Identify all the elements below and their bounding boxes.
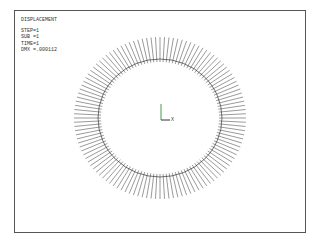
displacement-vector <box>178 171 186 195</box>
displacement-vector <box>106 162 123 181</box>
displacement-vector <box>172 173 178 197</box>
displacement-vector <box>197 162 214 181</box>
displacement-vector <box>74 121 101 122</box>
displacement-vector <box>217 132 243 138</box>
displacement-vector <box>78 93 104 101</box>
displacement-vector <box>218 105 245 109</box>
displacement-vector-ring: X <box>0 0 318 249</box>
displacement-vector <box>151 174 154 199</box>
displacement-vector <box>216 135 242 143</box>
x-axis-label: X <box>171 117 174 123</box>
displacement-vector <box>202 61 221 79</box>
displacement-vector <box>77 132 103 138</box>
displacement-vector <box>175 172 182 196</box>
displacement-vector <box>96 155 116 172</box>
displacement-vector <box>74 124 101 127</box>
displacement-vector <box>199 58 217 77</box>
displacement-vector <box>163 174 164 199</box>
displacement-vector <box>197 55 214 74</box>
displacement-vector <box>138 172 145 196</box>
displacement-vector <box>77 97 103 103</box>
displacement-vector <box>133 171 141 195</box>
displacement-vector <box>195 163 211 183</box>
displacement-vector <box>175 40 182 64</box>
displacement-vector <box>155 174 156 199</box>
displacement-vector <box>106 55 123 74</box>
displacement-vector <box>147 38 151 63</box>
displacement-vector <box>102 160 120 179</box>
displacement-vector <box>99 61 118 79</box>
displacement-vector <box>96 64 116 81</box>
displacement-vector <box>172 39 178 63</box>
displacement-vector <box>206 67 227 83</box>
displacement-vector <box>75 105 102 109</box>
displacement-vector <box>102 58 120 77</box>
displacement-vector <box>169 38 173 63</box>
displacement-vector <box>93 153 114 169</box>
displacement-vector <box>219 114 246 115</box>
displacement-vector <box>216 93 242 101</box>
displacement-vector <box>218 127 245 131</box>
displacement-vector <box>133 41 141 65</box>
axis-triad: X <box>161 104 174 123</box>
displacement-vector <box>142 173 148 197</box>
displacement-vector <box>204 64 224 81</box>
displacement-vector <box>76 101 102 106</box>
displacement-vector <box>218 130 244 135</box>
displacement-vector <box>219 124 246 127</box>
displacement-vector <box>76 130 102 135</box>
displacement-vector <box>109 163 125 183</box>
displacement-vector <box>151 37 154 62</box>
displacement-vector <box>78 135 104 143</box>
displacement-vector <box>109 52 125 72</box>
displacement-vector <box>219 110 246 113</box>
displacement-vector <box>75 127 102 131</box>
displacement-vector <box>138 40 145 64</box>
displacement-vector <box>169 173 173 198</box>
displacement-vector <box>166 37 169 62</box>
displacement-vector <box>74 114 101 115</box>
displacement-vector <box>178 41 186 65</box>
displacement-vector <box>206 153 227 169</box>
displacement-vector <box>199 160 217 179</box>
displacement-vector <box>202 158 221 176</box>
displacement-vector <box>142 39 148 63</box>
displacement-vector <box>155 37 156 62</box>
displacement-vector <box>93 67 114 83</box>
displacement-vector <box>166 174 169 199</box>
displacement-vectors <box>74 37 246 199</box>
displacement-vector <box>218 101 244 106</box>
displacement-vector <box>99 158 118 176</box>
displacement-vector <box>204 155 224 172</box>
displacement-vector <box>74 110 101 113</box>
displacement-vector <box>195 52 211 72</box>
displacement-vector <box>147 173 151 198</box>
displacement-vector <box>219 121 246 122</box>
displacement-vector <box>217 97 243 103</box>
displacement-vector <box>163 37 164 62</box>
